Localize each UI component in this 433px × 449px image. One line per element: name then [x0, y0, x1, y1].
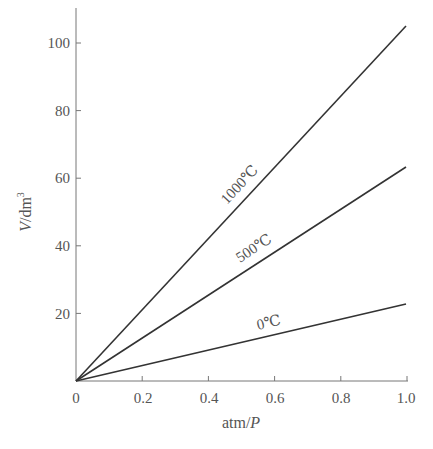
y-tick-label: 40: [55, 238, 70, 254]
y-axis-title: V/dm3: [15, 192, 34, 232]
series-line-0c: [76, 304, 406, 381]
x-ticks: [142, 376, 407, 381]
series-label-1000c: 1000℃: [217, 162, 261, 207]
x-tick-label: 0.2: [134, 390, 153, 406]
x-tick-labels: 0 0.2 0.4 0.6 0.8 1.0: [72, 390, 415, 406]
series-label-500c: 500℃: [233, 231, 275, 266]
x-axis-title: atm/P: [222, 414, 260, 431]
series-line-500c: [76, 167, 406, 381]
y-tick-label: 20: [55, 306, 70, 322]
y-tick-label: 60: [55, 170, 70, 186]
series-line-1000c: [76, 26, 406, 381]
y-tick-label: 100: [48, 35, 71, 51]
y-ticks: [76, 43, 81, 313]
series-label-0c: 0℃: [255, 312, 282, 333]
x-tick-label: 0.4: [200, 390, 219, 406]
y-tick-labels: 100 80 60 40 20: [48, 35, 71, 322]
x-tick-label: 1.0: [397, 390, 416, 406]
chart-canvas: 100 80 60 40 20 0 0.2 0.4 0.6 0.8 1.0 at…: [0, 0, 433, 449]
x-tick-label: 0.8: [332, 390, 351, 406]
x-tick-label: 0.6: [266, 390, 285, 406]
x-tick-label: 0: [72, 390, 80, 406]
y-tick-label: 80: [55, 103, 70, 119]
